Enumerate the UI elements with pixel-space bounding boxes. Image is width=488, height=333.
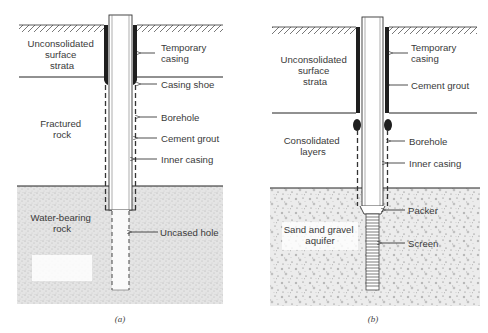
zone-label-unconsolidated: Unconsolidated surface strata — [281, 54, 350, 87]
zone-label-fractured-rock: Fractured rock — [40, 118, 84, 140]
caption-a: (a) — [115, 314, 126, 324]
temporary-casing — [385, 27, 389, 113]
callout-inner-casing: Inner casing — [409, 158, 461, 169]
callout-temporary-casing: Temporary casing — [411, 42, 459, 64]
callout-inner-casing: Inner casing — [161, 154, 213, 165]
casing-shoe — [133, 77, 137, 85]
cement-grout-bulge — [384, 119, 392, 131]
temporary-casing — [104, 25, 108, 77]
callout-packer: Packer — [408, 205, 439, 216]
zone-label-unconsolidated: Unconsolidated surface strata — [28, 38, 97, 71]
callout-uncased-hole: Uncased hole — [160, 227, 219, 238]
callout-borehole: Borehole — [161, 112, 199, 123]
temporary-casing — [356, 27, 360, 113]
temporary-casing — [133, 25, 137, 77]
callout-borehole: Borehole — [409, 136, 447, 147]
panel-b: Unconsolidated surface strata Consolidat… — [270, 17, 480, 324]
callout-casing-shoe: Casing shoe — [161, 79, 214, 90]
cement-grout-bulge — [353, 119, 361, 131]
uncased-hole — [112, 210, 129, 290]
panel-a: Unconsolidated surface strata Fractured … — [17, 15, 223, 324]
packer — [360, 206, 385, 214]
callout-temporary-casing: Temporary casing — [161, 42, 209, 64]
caption-b: (b) — [368, 314, 379, 324]
callout-cement-grout: Cement grout — [411, 80, 469, 91]
callout-cement-grout: Cement grout — [161, 133, 219, 144]
inner-casing — [109, 15, 132, 210]
casing-shoe — [104, 77, 108, 85]
ground-surface-hatch — [19, 25, 104, 32]
ground-surface-hatch — [389, 27, 477, 34]
well-construction-diagram: Unconsolidated surface strata Fractured … — [0, 0, 488, 333]
ground-surface-hatch — [137, 25, 223, 32]
well-screen — [366, 214, 379, 290]
zone-label-consolidated-layers: Consolidated layers — [284, 135, 343, 157]
ground-surface-hatch — [272, 27, 356, 34]
callout-screen: Screen — [408, 238, 438, 249]
